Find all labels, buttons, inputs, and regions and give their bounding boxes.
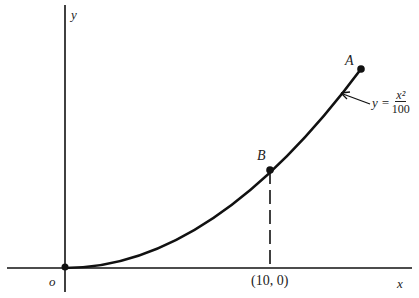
diagram-canvas xyxy=(0,0,419,298)
origin-label: o xyxy=(49,275,56,288)
point-a-label: A xyxy=(345,54,354,68)
arrow-shaft xyxy=(343,94,370,104)
tick-label-10-0: (10, 0) xyxy=(251,274,288,288)
point-b xyxy=(266,166,274,174)
origin-point xyxy=(62,264,69,271)
equation-lhs: y = xyxy=(372,96,390,109)
equation-numerator: x² xyxy=(395,89,406,102)
equation-denominator: 100 xyxy=(392,102,410,115)
x-axis-label: x xyxy=(397,277,403,290)
point-b-label: B xyxy=(257,149,266,163)
y-axis-label: y xyxy=(71,8,77,21)
curve-equation: y = x² 100 xyxy=(372,89,410,115)
parabola-curve xyxy=(65,69,361,268)
equation-fraction: x² 100 xyxy=(392,89,410,115)
point-a xyxy=(357,65,365,73)
